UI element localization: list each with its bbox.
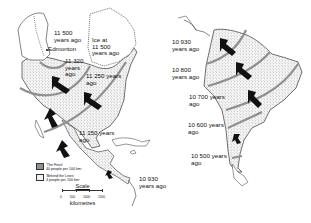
- legend-sublabel: 40 people per 100 km²: [46, 167, 82, 171]
- label-ice-at-11500: Ice at 11 500 years ago: [92, 37, 119, 57]
- label-edmonton: Edmonton: [46, 46, 76, 53]
- scale-ticks: 0 500 1000 1500: [60, 195, 105, 199]
- label-10700-years: 10 700 years ago: [189, 94, 225, 107]
- scale-bar: Scale 0 500 1000 1500 kilometres: [60, 183, 105, 206]
- label-line: ago: [188, 129, 224, 136]
- label-line: years ago: [172, 46, 199, 53]
- legend-item-behind-lines: 'Behind the Lines' 4 people per 100 km²: [36, 174, 82, 182]
- front-swatch-icon: [36, 163, 44, 170]
- label-10800-years: 10 800 years ago: [172, 67, 199, 80]
- label-line: years ago: [139, 183, 166, 190]
- label-line: ago: [191, 160, 227, 167]
- label-line: ago: [65, 71, 83, 78]
- scale-tick: 500: [70, 195, 75, 199]
- label-line: ago: [79, 137, 114, 144]
- label-line: years ago: [54, 37, 81, 44]
- scale-tick: 1000: [83, 195, 90, 199]
- legend-item-front: 'The Front' 40 people per 100 km²: [36, 163, 82, 171]
- map-canvas: [0, 0, 311, 223]
- label-line: ago: [86, 80, 121, 87]
- scale-tick: 1500: [98, 195, 105, 199]
- label-11250-years: 11 250 years ago: [86, 73, 121, 86]
- label-11150-years: 11 150 years ago: [79, 130, 114, 143]
- scale-line: [62, 190, 103, 194]
- label-line: years ago: [172, 74, 199, 81]
- label-line: Edmonton: [46, 46, 76, 53]
- map-legend: 'The Front' 40 people per 100 km² 'Behin…: [36, 163, 82, 184]
- label-11500-years: 11 500 years ago: [54, 30, 81, 43]
- scale-unit: kilometres: [60, 200, 105, 206]
- scale-title: Scale: [60, 183, 105, 189]
- edmonton-dot-icon: [46, 49, 48, 51]
- label-10500-years: 10 500 years ago: [191, 153, 227, 166]
- label-line: years ago: [92, 50, 119, 57]
- scale-tick: 0: [60, 195, 62, 199]
- behind-lines-swatch-icon: [36, 174, 44, 181]
- label-line: ago: [189, 101, 225, 108]
- legend-sublabel: 4 people per 100 km²: [46, 178, 80, 182]
- label-10930-panama: 10 930 years ago: [139, 176, 166, 189]
- label-10930-years: 10 930 years ago: [172, 39, 199, 52]
- label-11320-years: 11 320 years ago: [65, 58, 83, 78]
- label-10600-years: 10 600 years ago: [188, 122, 224, 135]
